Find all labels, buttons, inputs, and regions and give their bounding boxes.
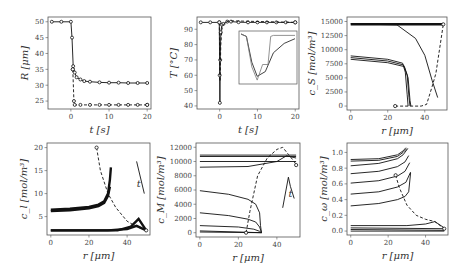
- endpoint-marker: [442, 23, 445, 26]
- series-s1: [351, 148, 406, 160]
- endpoint-marker: [294, 21, 297, 24]
- endpoint-marker: [95, 146, 98, 149]
- y-tick-label: 10000: [321, 46, 343, 54]
- marker: [98, 81, 101, 84]
- x-tick-label: 20: [291, 113, 300, 121]
- series-s7: [351, 173, 411, 206]
- y-tick-label: 50: [35, 18, 44, 26]
- subplot-cS_vs_r: 020400250050007500100001250015000r [μm]c…: [306, 17, 447, 136]
- marker: [127, 81, 130, 84]
- x-tick-label: 40: [421, 239, 430, 247]
- y-tick-label: 45: [35, 34, 44, 42]
- x-tick-label: 0: [49, 239, 53, 247]
- y-tick-label: 30: [35, 82, 44, 90]
- y-tick-label: 4000: [174, 201, 192, 209]
- y-tick-label: 8000: [174, 172, 192, 180]
- series-late-1: [351, 56, 408, 106]
- x-tick-label: 0: [217, 113, 221, 121]
- marker: [117, 81, 120, 84]
- endpoint-marker: [71, 68, 74, 71]
- y-tick-label: 35: [35, 66, 44, 74]
- y-axis-label: c_ω [mol/m³]: [318, 156, 330, 221]
- marker: [199, 21, 202, 24]
- subplot-R_vs_t: 01020253035404550t [s]R [μm]: [19, 17, 152, 135]
- y-tick-label: 10000: [170, 158, 192, 166]
- y-tick-label: 15: [34, 167, 43, 175]
- x-tick-label: 20: [383, 114, 392, 122]
- y-tick-label: 0.2: [332, 212, 343, 220]
- series-s6: [200, 213, 262, 233]
- x-tick-label: 0: [69, 113, 73, 121]
- x-axis-label: r [μm]: [83, 250, 115, 261]
- y-axis-label: R [μm]: [19, 46, 30, 82]
- inset-axes: [239, 31, 297, 84]
- x-tick-label: 40: [272, 241, 281, 249]
- y-axis-label: c_S [mol/m³]: [306, 31, 318, 95]
- x-tick-label: 20: [143, 113, 152, 121]
- x-tick-label: 20: [384, 239, 393, 247]
- subplot-cM_vs_r: 02040020004000600080001000012000r [μm]c_…: [155, 143, 300, 263]
- marker: [72, 65, 75, 68]
- y-tick-label: 25: [35, 97, 44, 105]
- x-axis-label: r [μm]: [232, 252, 264, 263]
- marker: [218, 101, 221, 104]
- marker: [209, 21, 212, 24]
- y-tick-label: 0.4: [332, 196, 344, 204]
- y-tick-label: 2500: [325, 88, 343, 96]
- series-s6: [351, 172, 411, 194]
- y-tick-label: 90: [184, 26, 193, 34]
- marker: [88, 80, 91, 83]
- x-axis-label: r [μm]: [381, 125, 413, 136]
- y-tick-label: 70: [184, 56, 193, 64]
- y-tick-label: 12500: [321, 32, 343, 40]
- subplot-T_vs_t: 01020405060708090t [s]T [°C]: [168, 17, 300, 135]
- marker: [127, 103, 130, 106]
- endpoint-marker: [394, 174, 397, 177]
- marker: [136, 81, 139, 84]
- marker: [73, 103, 76, 106]
- series-front: [396, 175, 445, 229]
- x-tick-label: 40: [420, 114, 429, 122]
- series-band-low-2: [51, 219, 146, 231]
- x-tick-label: 40: [123, 239, 132, 247]
- y-axis-label: T [°C]: [168, 48, 179, 78]
- x-axis-label: t [s]: [238, 124, 258, 135]
- marker: [50, 20, 53, 23]
- x-axis-label: t [s]: [89, 124, 109, 135]
- y-tick-label: 1.0: [332, 149, 343, 157]
- series-group: [351, 23, 445, 108]
- x-tick-label: 10: [253, 113, 262, 121]
- y-tick-label: 12000: [170, 144, 192, 152]
- series-group: [51, 146, 148, 232]
- y-tick-label: 0.8: [332, 165, 343, 173]
- endpoint-marker: [443, 227, 446, 230]
- marker: [72, 100, 75, 103]
- axes-frame: [48, 17, 151, 109]
- y-tick-label: 15000: [321, 18, 343, 26]
- y-tick-label: 40: [35, 50, 44, 58]
- endpoint-marker: [145, 229, 148, 232]
- x-axis-label: r [μm]: [382, 250, 414, 261]
- marker: [79, 103, 82, 106]
- y-axis-label: c_l [mol/m³]: [18, 159, 30, 219]
- series-late-3: [351, 59, 411, 106]
- marker: [83, 80, 86, 83]
- series-dashed: [73, 69, 147, 105]
- y-tick-label: 60: [184, 72, 193, 80]
- x-tick-label: 10: [105, 113, 114, 121]
- y-tick-label: 40: [184, 102, 193, 110]
- y-tick-label: 0: [339, 102, 343, 110]
- series-s9: [351, 228, 445, 229]
- marker: [146, 81, 149, 84]
- y-tick-label: 50: [184, 87, 193, 95]
- series-s8: [351, 222, 445, 228]
- y-tick-label: 5000: [325, 74, 343, 82]
- y-tick-label: 80: [184, 41, 193, 49]
- marker: [79, 78, 82, 81]
- x-tick-label: 0: [349, 239, 353, 247]
- y-tick-label: 20: [34, 144, 43, 152]
- series-late-2: [351, 58, 410, 107]
- endpoint-marker: [146, 103, 149, 106]
- series-s3: [351, 149, 408, 166]
- subplot-cw_vs_r: 020400.00.20.40.60.81.0r [μm]c_ω [mol/m³…: [318, 143, 448, 261]
